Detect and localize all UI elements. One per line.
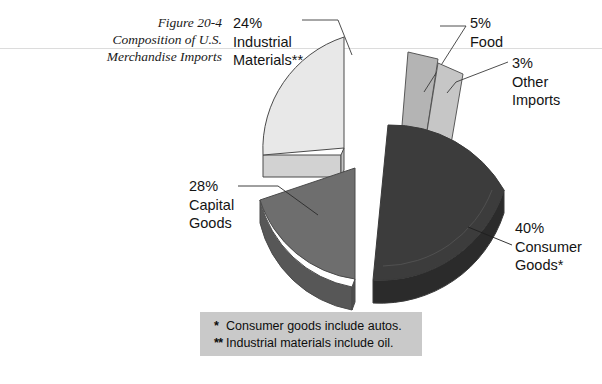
label-industrial-materials-line2: Materials** — [233, 51, 303, 70]
pie-slice-consumer-goods — [373, 125, 512, 303]
label-other-imports-line1: Other — [512, 73, 560, 92]
label-consumer-goods-line2: Goods* — [515, 256, 582, 275]
footnote-text: Industrial materials include oil. — [226, 335, 393, 352]
label-industrial-materials-pct: 24% — [233, 14, 303, 33]
label-consumer-goods: 40% Consumer Goods* — [515, 219, 582, 275]
label-food-line1: Food — [470, 33, 503, 52]
label-other-imports-pct: 3% — [512, 54, 560, 73]
footnote-panel: * Consumer goods include autos. ** Indus… — [200, 312, 422, 356]
footnote-mark: * — [200, 318, 226, 335]
label-capital-goods: 28% Capital Goods — [189, 177, 234, 233]
pie-slice-capital-goods — [238, 168, 355, 310]
label-capital-goods-line2: Goods — [189, 214, 234, 233]
label-capital-goods-line1: Capital — [189, 196, 234, 215]
footnote-row: ** Industrial materials include oil. — [200, 335, 422, 352]
label-food: 5% Food — [470, 14, 503, 51]
footnote-row: * Consumer goods include autos. — [200, 318, 422, 335]
footnote-text: Consumer goods include autos. — [226, 318, 402, 335]
label-food-pct: 5% — [470, 14, 503, 33]
label-consumer-goods-pct: 40% — [515, 219, 582, 238]
label-industrial-materials-line1: Industrial — [233, 33, 303, 52]
footnote-mark: ** — [200, 335, 226, 352]
label-other-imports: 3% Other Imports — [512, 54, 560, 110]
label-consumer-goods-line1: Consumer — [515, 238, 582, 257]
figure-canvas: Figure 20-4 Composition of U.S. Merchand… — [0, 0, 602, 384]
label-industrial-materials: 24% Industrial Materials** — [233, 14, 303, 70]
label-other-imports-line2: Imports — [512, 91, 560, 110]
label-capital-goods-pct: 28% — [189, 177, 234, 196]
